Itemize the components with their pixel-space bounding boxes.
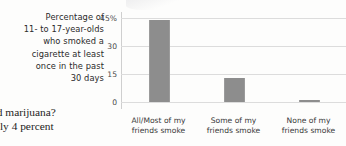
bar-chart: 45% 30 15 0 All/Most of my friends smoke… — [121, 12, 346, 104]
x-label-2-line-1: None of my — [271, 116, 346, 126]
y-tick-label-15: 15 — [107, 70, 117, 79]
caption-line-6: 30 days — [0, 72, 104, 84]
chart-figure: Percentage of 11- to 17-year-olds who sm… — [0, 0, 346, 146]
bar-none-friends-smoke — [299, 100, 320, 102]
y-axis-line — [121, 12, 122, 109]
x-label-1-line-2: friends smoke — [196, 126, 272, 136]
body-text: ked marijuana? Only 4 percent — [0, 105, 104, 133]
bar-all-most-friends-smoke — [149, 20, 170, 102]
gridline-0: 0 — [121, 102, 346, 103]
y-tick-label-45: 45% — [100, 14, 117, 23]
x-label-none-friends-smoke: None of my friends smoke — [271, 116, 346, 136]
x-label-all-most-friends-smoke: All/Most of my friends smoke — [121, 116, 197, 136]
caption-line-3: who smoked a — [0, 35, 104, 47]
scan-artifact — [126, 0, 182, 10]
gridline-45: 45% — [121, 18, 346, 19]
x-label-some-friends-smoke: Some of my friends smoke — [196, 116, 272, 136]
caption-line-1: Percentage of — [0, 11, 104, 23]
caption-line-5: once in the past — [0, 60, 104, 72]
x-label-0-line-2: friends smoke — [121, 126, 197, 136]
body-text-line-2: Only 4 percent — [0, 119, 104, 133]
y-tick-label-0: 0 — [112, 98, 117, 107]
chart-caption: Percentage of 11- to 17-year-olds who sm… — [0, 11, 104, 84]
x-label-1-line-1: Some of my — [196, 116, 272, 126]
bar-some-friends-smoke — [224, 78, 245, 102]
caption-line-4: cigarette at least — [0, 48, 104, 60]
caption-line-2: 11- to 17-year-olds — [0, 23, 104, 35]
body-text-line-1: ked marijuana? — [0, 105, 104, 119]
x-label-2-line-2: friends smoke — [271, 126, 346, 136]
plot-area: 45% 30 15 0 All/Most of my friends smoke… — [121, 18, 346, 103]
y-tick-label-30: 30 — [107, 42, 117, 51]
x-label-0-line-1: All/Most of my — [121, 116, 197, 126]
